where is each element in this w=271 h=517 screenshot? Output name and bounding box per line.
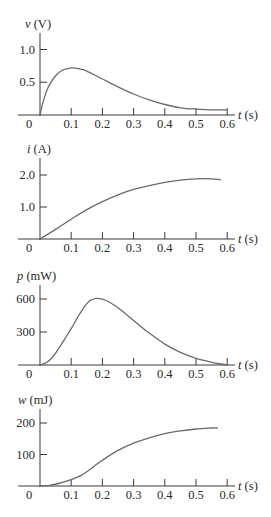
- chart-voltage: v (V) 0.51.000.10.20.30.40.50.6t (s): [18, 17, 258, 131]
- x-tick-label: 0.3: [126, 241, 142, 255]
- y-axis-label: w (mJ): [18, 393, 52, 407]
- y-axis-label: i (A): [27, 142, 51, 156]
- y-tick-label: 2.0: [19, 168, 35, 182]
- x-tick-label: 0.1: [63, 117, 79, 131]
- y-tick-label: 1.0: [19, 43, 35, 57]
- x-tick-label: 0.4: [157, 117, 173, 131]
- x-tick-label: 0.5: [188, 488, 204, 502]
- chart-power: p (mW) 30060000.10.20.30.40.50.6t (s): [16, 269, 258, 381]
- x-tick-label: 0.6: [219, 367, 235, 381]
- chart-energy: w (mJ) 10020000.10.20.30.40.50.6t (s): [16, 393, 258, 502]
- x-tick-label: 0.1: [63, 367, 79, 381]
- x-tick-label: 0.4: [157, 367, 173, 381]
- x-tick-label: 0.2: [95, 367, 111, 381]
- x-tick-label: 0: [26, 367, 32, 381]
- x-axis-label: t (s): [238, 232, 258, 246]
- y-tick-label: 0.5: [19, 75, 35, 89]
- x-tick-label: 0.2: [95, 117, 111, 131]
- x-tick-label: 0.6: [219, 488, 235, 502]
- x-tick-label: 0.6: [219, 241, 235, 255]
- x-axis-label: t (s): [238, 479, 258, 493]
- y-tick-label: 300: [16, 325, 35, 339]
- chart-current: i (A) 1.02.000.10.20.30.40.50.6t (s): [18, 142, 258, 255]
- x-tick-label: 0: [26, 241, 32, 255]
- series-i-curve: [40, 179, 221, 239]
- x-tick-label: 0.1: [63, 488, 79, 502]
- x-tick-label: 0.4: [157, 488, 173, 502]
- x-tick-label: 0.5: [188, 367, 204, 381]
- y-axis-label: p (mW): [16, 269, 56, 283]
- x-axis-label: t (s): [238, 108, 258, 122]
- series-v-curve: [40, 68, 227, 115]
- y-tick-label: 100: [16, 448, 35, 462]
- x-tick-label: 0.3: [126, 367, 142, 381]
- figure: v (V) 0.51.000.10.20.30.40.50.6t (s) i (…: [0, 0, 271, 517]
- x-tick-label: 0.2: [95, 488, 111, 502]
- x-tick-label: 0.1: [63, 241, 79, 255]
- x-tick-label: 0.2: [95, 241, 111, 255]
- y-tick-label: 1.0: [19, 200, 35, 214]
- x-tick-label: 0.5: [188, 241, 204, 255]
- y-axis-label: v (V): [25, 17, 51, 31]
- x-axis-label: t (s): [238, 358, 258, 372]
- x-tick-label: 0.3: [126, 117, 142, 131]
- x-tick-label: 0.5: [188, 117, 204, 131]
- x-tick-label: 0.6: [219, 117, 235, 131]
- y-tick-label: 200: [16, 416, 35, 430]
- x-tick-label: 0.3: [126, 488, 142, 502]
- x-tick-label: 0: [26, 117, 32, 131]
- x-tick-label: 0: [26, 488, 32, 502]
- series-w-curve: [40, 428, 218, 486]
- series-p-curve: [40, 298, 227, 365]
- x-tick-label: 0.4: [157, 241, 173, 255]
- y-tick-label: 600: [16, 292, 35, 306]
